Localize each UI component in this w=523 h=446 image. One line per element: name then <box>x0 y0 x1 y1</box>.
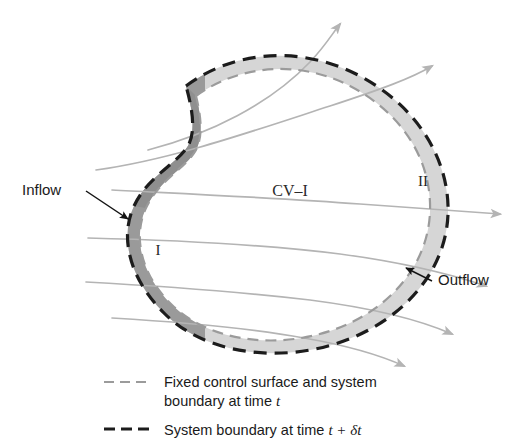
region-one-label: I <box>156 242 161 258</box>
legend-label-line-2-symbol: t <box>276 393 281 409</box>
inflow-callout: Inflow <box>22 181 128 219</box>
figure-page: I II CV–I Inflow Outflow Fixed control s… <box>0 0 523 446</box>
streamline-1 <box>148 24 340 150</box>
legend-label-line-3-symbol: t + δt <box>328 422 362 438</box>
outflow-label: Outflow <box>438 271 489 288</box>
legend-item-system-boundary: System boundary at time t + δt <box>104 422 362 438</box>
control-volume-label: CV–I <box>272 182 308 199</box>
region-two-label: II <box>418 173 428 189</box>
legend-label-line-2: boundary at time t <box>164 393 281 409</box>
inflow-label: Inflow <box>22 181 61 198</box>
control-volume-diagram: I II CV–I Inflow Outflow Fixed control s… <box>0 0 523 446</box>
legend-label-line-3-prefix: System boundary at time <box>164 422 328 438</box>
legend-item-fixed-control-surface: Fixed control surface and system boundar… <box>104 374 377 409</box>
legend-label-line-2-prefix: boundary at time <box>164 393 276 409</box>
legend-label-line-3: System boundary at time t + δt <box>164 422 362 438</box>
legend: Fixed control surface and system boundar… <box>104 374 377 438</box>
legend-label-line-1: Fixed control surface and system <box>164 374 377 390</box>
region-one-neck-shading <box>134 86 201 208</box>
streamline-2 <box>96 66 432 170</box>
inflow-leader-line <box>86 191 128 219</box>
